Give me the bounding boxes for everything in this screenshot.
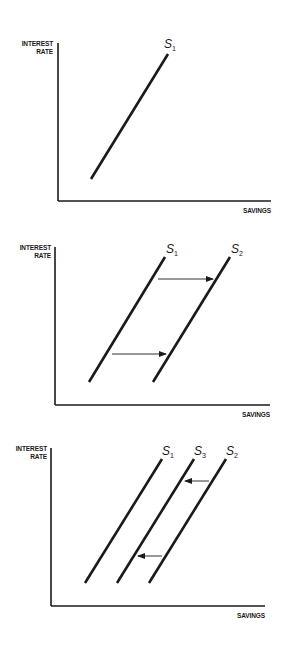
savings-supply-diagrams: INTERESTRATESAVINGSS1INTERESTRATESAVINGS… (0, 0, 289, 645)
supply-curve-s2 (153, 257, 230, 382)
curve-label-s1: S1 (164, 37, 176, 52)
curve-label-s2: S2 (231, 242, 243, 257)
panel-1: INTERESTRATESAVINGSS1 (22, 37, 272, 214)
supply-curve-s1 (85, 459, 162, 583)
panel-2: INTERESTRATESAVINGSS1S2 (20, 242, 271, 418)
curve-label-s1: S1 (162, 444, 174, 459)
y-axis-label: INTERESTRATE (22, 40, 54, 55)
supply-curve-s1 (91, 54, 168, 179)
supply-curve-s3 (117, 459, 194, 583)
x-axis-label: SAVINGS (243, 207, 272, 214)
curve-label-s2: S2 (226, 444, 238, 459)
y-axis-label: INTERESTRATE (20, 244, 52, 259)
curve-label-s1: S1 (166, 242, 178, 257)
supply-curve-s1 (89, 257, 165, 382)
x-axis-label: SAVINGS (237, 612, 266, 619)
x-axis-label: SAVINGS (242, 411, 271, 418)
panel-3: INTERESTRATESAVINGSS1S3S2 (16, 444, 266, 619)
curve-label-s3: S3 (194, 444, 206, 459)
y-axis-label: INTERESTRATE (16, 445, 48, 460)
supply-curve-s2 (149, 459, 226, 583)
